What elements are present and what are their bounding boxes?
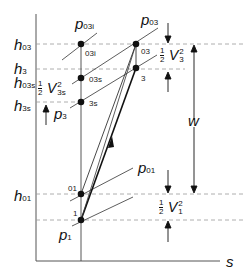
static-process-line xyxy=(81,68,136,220)
label-h03s: h03s xyxy=(14,75,35,91)
label-h03: h03 xyxy=(14,37,31,53)
label-half-v3-squared: 12 V23 xyxy=(160,47,184,64)
point-label-03i: 03i xyxy=(85,50,96,58)
hs-diagram-canvas xyxy=(0,0,248,276)
point-label-03: 03 xyxy=(141,48,150,56)
label-p1: p1 xyxy=(59,227,72,243)
label-work: w xyxy=(188,113,199,128)
point-label-3: 3 xyxy=(141,75,145,83)
label-p01: p01 xyxy=(138,160,155,176)
point-label-01: 01 xyxy=(68,185,77,193)
label-half-v1-squared: 12 V21 xyxy=(159,199,183,216)
label-h3s: h3s xyxy=(14,98,31,114)
point-label-1: 1 xyxy=(73,210,77,218)
label-p03i: p03i xyxy=(75,16,94,32)
label-p3: p3 xyxy=(54,106,67,122)
label-h01: h01 xyxy=(14,188,31,204)
label-half-v3s-squared: 12 V23s xyxy=(38,80,66,97)
x-axis-label: s xyxy=(226,254,234,269)
stagnation-process-line xyxy=(81,44,136,194)
point-label-03s: 03s xyxy=(89,76,102,84)
label-p03: p03 xyxy=(141,12,158,28)
point-label-3s: 3s xyxy=(89,100,97,108)
enthalpy-level-lines xyxy=(36,44,245,220)
